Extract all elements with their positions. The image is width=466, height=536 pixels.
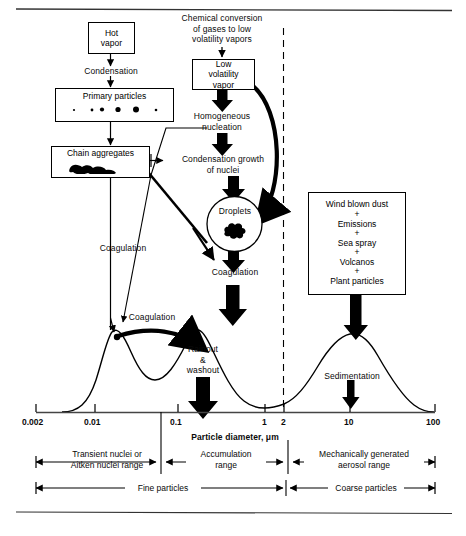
label-condensation: Condensation bbox=[66, 66, 156, 77]
box-lvv-line3: vapor bbox=[213, 80, 234, 91]
tick-label-2: 2 bbox=[281, 417, 286, 427]
chain-aggregate-glyph bbox=[56, 159, 146, 174]
accumulation-line2: range bbox=[186, 460, 266, 471]
box-primary-particles[interactable]: Primary particles bbox=[55, 88, 174, 122]
box-natural-sources[interactable]: Wind blown dust + Emissions + Sea spray … bbox=[308, 192, 406, 295]
chemconv-line1: Chemical conversion bbox=[160, 13, 284, 24]
accumulation-line1: Accumulation bbox=[186, 449, 266, 460]
label-droplets: Droplets bbox=[205, 206, 265, 217]
rainout-line2: & bbox=[173, 355, 233, 366]
range-label-fine: Fine particles bbox=[125, 483, 201, 494]
chemconv-line3: volatility vapors bbox=[160, 34, 284, 45]
range-label-coarse: Coarse particles bbox=[328, 483, 404, 494]
homogeneous-line2: nucleation bbox=[175, 122, 269, 133]
box-hot-vapor-line2: vapor bbox=[101, 38, 122, 49]
tick-label-001: 0.01 bbox=[84, 417, 101, 427]
droplets-circle bbox=[207, 197, 262, 252]
fat-arrow-coagulation-to-curve bbox=[219, 285, 247, 326]
fat-arrow-sources-to-curve bbox=[344, 293, 368, 340]
thick-line-chain-to-droplets bbox=[148, 172, 207, 243]
range-label-accumulation: Accumulation range bbox=[186, 449, 266, 470]
tick-label-0002: 0.002 bbox=[22, 417, 43, 427]
transient-line2: Aitken nuclei range bbox=[52, 460, 162, 471]
box-primary-particles-label: Primary particles bbox=[83, 91, 146, 102]
fat-arrow-nucleation-to-growth bbox=[212, 133, 233, 156]
mechanical-line2: aerosol range bbox=[304, 460, 424, 471]
transient-line1: Transient nuclei or bbox=[52, 449, 162, 460]
fat-arrow-lvv-to-nucleation bbox=[212, 89, 233, 112]
growth-line1: Condensation growth bbox=[160, 154, 286, 165]
homogeneous-line1: Homogeneous bbox=[175, 111, 269, 122]
tick-label-01: 0.1 bbox=[170, 417, 182, 427]
box-low-volatility-vapor[interactable]: Low volatility vapor bbox=[192, 59, 255, 90]
box-hot-vapor-line1: Hot bbox=[105, 28, 118, 39]
rainout-line3: washout bbox=[173, 365, 233, 376]
fat-arrow-sedimentation bbox=[342, 380, 359, 409]
top-rule bbox=[16, 9, 452, 11]
box-hot-vapor[interactable]: Hot vapor bbox=[88, 22, 135, 54]
primary-particles-glyph bbox=[60, 102, 170, 116]
label-coagulation-lower: Coagulation bbox=[112, 312, 192, 323]
label-chemical-conversion: Chemical conversion of gases to low vola… bbox=[160, 13, 284, 45]
sources-plant-particles: Plant particles bbox=[330, 277, 383, 287]
bottom-rule bbox=[16, 512, 452, 514]
tick-label-1: 1 bbox=[262, 417, 267, 427]
chemconv-line2: of gases to low bbox=[160, 24, 284, 35]
growth-line2: of nuclei bbox=[160, 165, 286, 176]
label-homogeneous-nucleation: Homogeneous nucleation bbox=[175, 111, 269, 132]
box-lvv-line1: Low bbox=[216, 59, 232, 70]
label-coagulation-left: Coagulation bbox=[85, 243, 161, 254]
range-label-mechanical: Mechanically generated aerosol range bbox=[304, 449, 424, 470]
label-rainout-washout: Rainout & washout bbox=[173, 344, 233, 376]
box-chain-aggregates-label: Chain aggregates bbox=[67, 148, 134, 159]
mechanical-line1: Mechanically generated bbox=[304, 449, 424, 460]
tick-label-100: 100 bbox=[426, 417, 440, 427]
axis-title: Particle diameter, μm bbox=[160, 432, 310, 443]
x-axis-ticks bbox=[36, 404, 435, 412]
tick-label-10: 10 bbox=[344, 417, 353, 427]
label-sedimentation: Sedimentation bbox=[311, 371, 393, 382]
box-lvv-line2: volatility bbox=[208, 69, 238, 80]
range-label-transient: Transient nuclei or Aitken nuclei range bbox=[52, 449, 162, 470]
box-chain-aggregates[interactable]: Chain aggregates bbox=[51, 146, 150, 178]
rainout-line1: Rainout bbox=[173, 344, 233, 355]
label-condensation-growth: Condensation growth of nuclei bbox=[160, 154, 286, 175]
label-coagulation-center: Coagulation bbox=[195, 267, 275, 278]
coagulation-node-dot bbox=[114, 334, 120, 340]
